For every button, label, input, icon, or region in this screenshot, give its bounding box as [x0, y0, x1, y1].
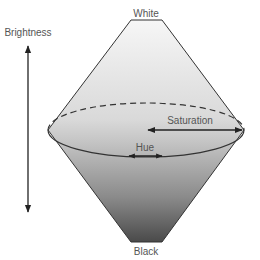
label-saturation: Saturation [167, 115, 213, 126]
hsb-double-cone-diagram: White Brightness Saturation Hue Black [0, 0, 260, 260]
label-hue: Hue [136, 142, 155, 153]
double-cone-body [48, 20, 244, 242]
label-brightness: Brightness [4, 27, 51, 38]
label-white: White [133, 8, 159, 19]
label-black: Black [134, 246, 159, 257]
